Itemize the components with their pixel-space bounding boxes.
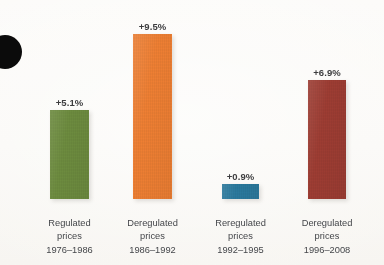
bar-category-line-2-3: prices	[266, 230, 384, 243]
bar-0	[50, 110, 89, 199]
bar-group-3: +6.9% Deregulated prices 1996–2008	[308, 0, 346, 265]
bar-sheen-1	[133, 34, 172, 199]
bar-sheen-3	[308, 80, 346, 199]
bar-value-label-3: +6.9%	[282, 67, 372, 78]
bar-category-line-1-3: Deregulated	[266, 217, 384, 230]
bar-1	[133, 34, 172, 199]
bar-group-2: +0.9% Reregulated prices 1992–1995	[222, 0, 259, 265]
bar-category-label-3: Deregulated prices 1996–2008	[266, 217, 384, 257]
plot-area: +5.1% Regulated prices 1976–1986 +9.5% D…	[0, 0, 384, 265]
bar-value-label-0: +5.1%	[24, 97, 115, 108]
bar-group-1: +9.5% Deregulated prices 1986–1992	[133, 0, 172, 265]
bar-chart: +5.1% Regulated prices 1976–1986 +9.5% D…	[0, 0, 384, 265]
bar-value-label-2: +0.9%	[196, 171, 285, 182]
bar-sheen-2	[222, 184, 259, 199]
bar-value-label-1: +9.5%	[107, 21, 198, 32]
bar-group-0: +5.1% Regulated prices 1976–1986	[50, 0, 89, 265]
bar-sheen-0	[50, 110, 89, 199]
bar-category-line-3-3: 1996–2008	[266, 244, 384, 257]
bar-2	[222, 184, 259, 199]
bar-3	[308, 80, 346, 199]
